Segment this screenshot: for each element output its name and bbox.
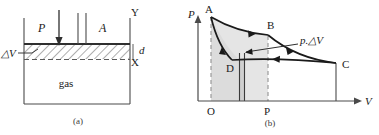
label-corner-bottom: X	[131, 56, 139, 68]
arrow-C-to-D	[272, 56, 280, 63]
point-label-D: D	[226, 62, 234, 74]
label-area: A	[98, 21, 107, 35]
panel-a-piston-diagram: P A Y X d △V gas (a)	[0, 0, 186, 135]
hatched-slab-icon	[24, 45, 130, 59]
y-axis-arrowhead	[195, 15, 202, 23]
caption-panel-b: (b)	[265, 118, 276, 128]
panel-b-pv-diagram: P V O P A B C D p.△V (b)	[186, 0, 379, 135]
label-pressure: P	[37, 21, 46, 35]
area-indicator-ticks	[78, 13, 86, 44]
axis-label-x: V	[365, 95, 373, 107]
label-gas: gas	[59, 77, 74, 89]
point-label-A: A	[205, 3, 213, 15]
label-corner-top: Y	[131, 6, 139, 18]
figure-root: P A Y X d △V gas (a)	[0, 0, 379, 135]
x-axis-arrowhead	[354, 98, 362, 105]
panel-b-svg: P V O P A B C D p.△V (b)	[186, 0, 379, 135]
panel-a-svg: P A Y X d △V gas (a)	[0, 0, 186, 135]
caption-panel-a: (a)	[73, 116, 83, 126]
x-tick-label-O: O	[207, 105, 215, 117]
down-arrow-icon	[55, 10, 62, 46]
point-label-C: C	[342, 58, 349, 70]
label-thickness: d	[139, 44, 145, 56]
annotation-p-delta-v: p.△V	[299, 34, 324, 46]
label-delta-volume: △V	[0, 47, 17, 59]
point-label-B: B	[267, 19, 274, 31]
x-tick-label-P: P	[264, 105, 270, 117]
axis-label-y: P	[187, 8, 195, 20]
